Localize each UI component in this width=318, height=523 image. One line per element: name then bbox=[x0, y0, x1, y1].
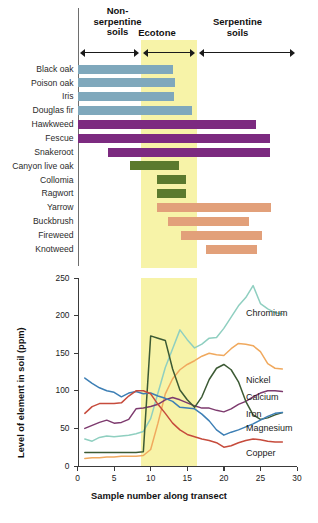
species-label: Yarrow bbox=[0, 203, 74, 212]
species-label: Fescue bbox=[0, 134, 74, 143]
species-range-bar bbox=[78, 134, 270, 143]
y-axis-tick-label: 150 bbox=[30, 348, 70, 358]
species-label: Canyon live oak bbox=[0, 162, 74, 171]
x-axis-tick-label: 0 bbox=[66, 473, 90, 483]
x-axis-tick-label: 5 bbox=[102, 473, 126, 483]
x-axis-title: Sample number along transect bbox=[0, 491, 318, 501]
x-axis-tick-label: 25 bbox=[248, 473, 272, 483]
species-label: Black oak bbox=[0, 65, 74, 74]
x-axis-tick bbox=[187, 467, 188, 471]
species-range-bar bbox=[78, 92, 175, 101]
x-axis-tick bbox=[260, 467, 261, 471]
species-range-bar bbox=[78, 106, 192, 115]
species-label: Ragwort bbox=[0, 189, 74, 198]
species-label: Knotweed bbox=[0, 245, 74, 254]
series-label-calcium: Calcium bbox=[246, 392, 279, 402]
species-label: Iris bbox=[0, 92, 74, 101]
species-label: Poison oak bbox=[0, 79, 74, 88]
x-axis-tick bbox=[223, 467, 224, 471]
species-range-panel: Non- serpentine soils Ecotone Serpentine… bbox=[0, 0, 318, 268]
species-label: Snakeroot bbox=[0, 148, 74, 157]
series-label-iron: Iron bbox=[246, 409, 262, 419]
y-axis-tick bbox=[74, 353, 78, 354]
species-range-bar bbox=[157, 175, 186, 184]
y-axis-line bbox=[78, 278, 79, 466]
series-label-nickel: Nickel bbox=[246, 375, 271, 385]
y-axis-tick-label: 250 bbox=[30, 273, 70, 283]
y-axis-tick bbox=[74, 428, 78, 429]
y-axis-tick bbox=[74, 390, 78, 391]
element-line-chart-panel: 050100150200250051015202530 Level of ele… bbox=[0, 268, 318, 523]
y-axis-tick bbox=[74, 278, 78, 279]
y-axis-tick-label: 50 bbox=[30, 423, 70, 433]
species-range-bar bbox=[157, 203, 270, 212]
x-axis-tick-label: 20 bbox=[212, 473, 236, 483]
zone-label-ecotone: Ecotone bbox=[121, 28, 193, 39]
species-range-bar bbox=[181, 231, 262, 240]
x-axis-tick bbox=[150, 467, 151, 471]
species-label: Collomia bbox=[0, 176, 74, 185]
figure-root: Non- serpentine soils Ecotone Serpentine… bbox=[0, 0, 318, 523]
x-axis-tick bbox=[297, 467, 298, 471]
series-label-chromium: Chromium bbox=[246, 308, 288, 318]
species-range-bar bbox=[78, 65, 173, 74]
x-axis-tick bbox=[114, 467, 115, 471]
x-axis-tick-label: 30 bbox=[285, 473, 309, 483]
species-range-bar bbox=[206, 245, 257, 254]
species-range-bar bbox=[78, 120, 257, 129]
zone-arrow-serpentine bbox=[199, 47, 295, 58]
zone-arrow-non-serpentine bbox=[80, 47, 140, 58]
species-range-bar bbox=[157, 189, 186, 198]
y-axis-tick-label: 200 bbox=[30, 310, 70, 320]
zone-label-serpentine: Serpentine soils bbox=[190, 17, 285, 38]
y-axis-tick-label: 100 bbox=[30, 385, 70, 395]
y-axis-tick bbox=[74, 315, 78, 316]
zone-arrow-ecotone bbox=[143, 47, 195, 58]
species-range-bar bbox=[78, 78, 175, 87]
y-axis-title: Level of element in soil (ppm) bbox=[16, 327, 26, 458]
species-range-bar bbox=[130, 161, 179, 170]
species-label: Fireweed bbox=[0, 231, 74, 240]
series-label-copper: Copper bbox=[246, 448, 276, 458]
species-range-bar bbox=[108, 148, 270, 157]
series-label-magnesium: Magnesium bbox=[246, 423, 293, 433]
species-label: Douglas fir bbox=[0, 106, 74, 115]
x-axis-tick bbox=[77, 467, 78, 471]
species-label: Hawkweed bbox=[0, 120, 74, 129]
x-axis-tick-label: 10 bbox=[139, 473, 163, 483]
species-label: Buckbrush bbox=[0, 217, 74, 226]
x-axis-tick-label: 15 bbox=[175, 473, 199, 483]
species-range-bar bbox=[168, 217, 248, 226]
y-axis-tick-label: 0 bbox=[30, 461, 70, 471]
